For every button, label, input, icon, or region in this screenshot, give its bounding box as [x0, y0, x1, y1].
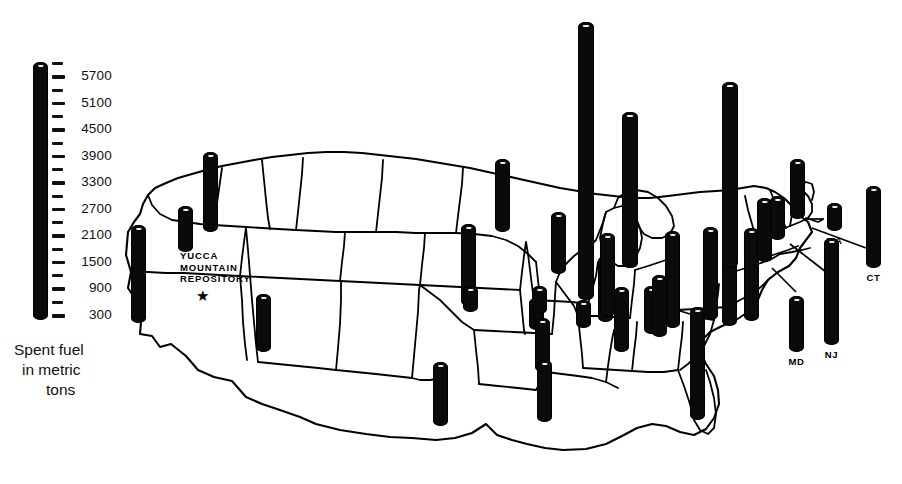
bar-il — [578, 22, 594, 300]
bar-ms — [576, 300, 591, 328]
bar-oh — [665, 231, 680, 328]
bar-nj — [824, 238, 839, 345]
bar-md — [789, 296, 804, 352]
bar-ks — [463, 286, 478, 312]
bar-ca — [131, 225, 146, 323]
bar-la — [537, 360, 552, 422]
bar-or — [178, 206, 193, 252]
bar-sc — [703, 227, 718, 320]
bar-vt — [790, 159, 805, 219]
bar-wi — [551, 212, 566, 274]
bar-nh — [770, 196, 785, 240]
figure-root: 57005100450039003300270021001500900300 S… — [0, 0, 902, 484]
bar-nj-label: NJ — [818, 349, 845, 360]
bar-ct — [866, 186, 881, 268]
bar-az — [256, 294, 271, 352]
bar-md-label: MD — [783, 356, 810, 367]
bar-ma — [827, 203, 842, 231]
bar-tx — [433, 362, 448, 426]
bar-mn — [495, 159, 510, 232]
bar-wa — [203, 152, 218, 232]
bar-mi — [622, 112, 638, 268]
bar-in — [600, 233, 615, 317]
bar-layer: MACTNJMD — [0, 0, 902, 484]
bar-fl — [690, 307, 705, 420]
bar-ga — [652, 275, 667, 337]
bar-pa — [722, 82, 738, 268]
bar-ct-label: CT — [860, 272, 887, 283]
bar-mo — [532, 286, 547, 314]
bar-al — [614, 287, 629, 352]
